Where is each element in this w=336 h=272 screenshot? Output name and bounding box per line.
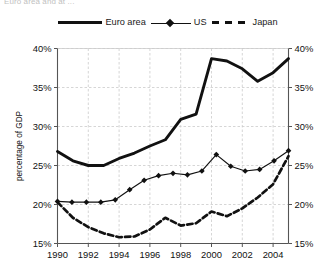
legend-label-us: US bbox=[194, 18, 207, 27]
legend-swatch-euro-area bbox=[58, 21, 102, 24]
svg-text:2004: 2004 bbox=[263, 249, 284, 260]
svg-text:percentage of GDP: percentage of GDP bbox=[15, 110, 24, 181]
series-japan bbox=[58, 156, 289, 237]
svg-text:15%: 15% bbox=[295, 238, 314, 249]
svg-text:2002: 2002 bbox=[232, 249, 253, 260]
svg-text:25%: 25% bbox=[295, 160, 314, 171]
svg-text:30%: 30% bbox=[33, 121, 52, 132]
svg-text:1998: 1998 bbox=[170, 249, 191, 260]
chart-title: Euro area and at ... bbox=[4, 0, 75, 6]
y-axis-title: percentage of GDP bbox=[15, 110, 24, 181]
svg-text:20%: 20% bbox=[33, 199, 52, 210]
svg-text:40%: 40% bbox=[295, 43, 314, 54]
series-us bbox=[55, 148, 292, 205]
svg-text:1990: 1990 bbox=[47, 249, 68, 260]
svg-text:30%: 30% bbox=[295, 121, 314, 132]
legend-swatch-us bbox=[151, 18, 191, 29]
svg-text:1992: 1992 bbox=[78, 249, 99, 260]
chart-plot: 15%20%25%30%35%40% 15%20%25%30%35%40% 19… bbox=[0, 0, 336, 272]
series-euro-area bbox=[58, 59, 289, 166]
svg-text:15%: 15% bbox=[33, 238, 52, 249]
legend-label-euro-area: Euro area bbox=[105, 18, 145, 27]
y-axis-right-ticks: 15%20%25%30%35%40% bbox=[289, 43, 314, 249]
legend-swatch-japan bbox=[212, 21, 250, 25]
svg-text:25%: 25% bbox=[33, 160, 52, 171]
svg-text:40%: 40% bbox=[33, 43, 52, 54]
y-axis-left-ticks: 15%20%25%30%35%40% bbox=[33, 43, 58, 249]
svg-text:2000: 2000 bbox=[201, 249, 222, 260]
svg-text:20%: 20% bbox=[295, 199, 314, 210]
svg-text:1994: 1994 bbox=[109, 249, 130, 260]
legend-item-japan: Japan bbox=[212, 18, 278, 27]
chart-legend: Euro area US Japan bbox=[0, 15, 336, 31]
svg-text:1996: 1996 bbox=[139, 249, 160, 260]
legend-label-japan: Japan bbox=[253, 18, 278, 27]
x-axis-ticks: 19901992199419961998200020022004 bbox=[47, 244, 283, 261]
svg-text:35%: 35% bbox=[33, 82, 52, 93]
legend-item-euro-area: Euro area bbox=[58, 18, 145, 27]
chart-container: Euro area and at ... Euro area US Japan … bbox=[0, 0, 336, 272]
svg-text:35%: 35% bbox=[295, 82, 314, 93]
legend-item-us: US bbox=[151, 18, 207, 29]
